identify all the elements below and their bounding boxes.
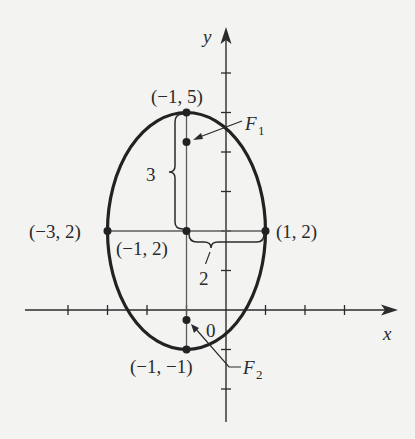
f2-label-name: F xyxy=(242,357,255,378)
f1-label-subscript: 1 xyxy=(258,123,265,138)
right-vertex-point xyxy=(262,227,270,235)
horizontal-brace-leader xyxy=(206,252,211,264)
horizontal-brace-label: 2 xyxy=(199,268,209,289)
f2-label-subscript: 2 xyxy=(256,367,263,382)
bottom-vertex-label: (−1, −1) xyxy=(130,356,193,378)
right-vertex-label: (1, 2) xyxy=(276,221,317,243)
center-label: (−1, 2) xyxy=(116,238,168,260)
focus-f2-point xyxy=(183,316,191,324)
focus-f1-point xyxy=(183,138,191,146)
top-vertex-point xyxy=(183,109,191,117)
bottom-vertex-point xyxy=(183,346,191,354)
y-axis: y 0 xyxy=(201,26,232,422)
top-vertex-label: (−1, 5) xyxy=(151,86,203,108)
f1-label-name: F xyxy=(244,113,257,134)
left-vertex-point xyxy=(104,227,112,235)
x-axis-label: x xyxy=(382,323,392,344)
focus-f1-annotation: F 1 xyxy=(193,113,265,140)
y-axis-label: y xyxy=(201,26,212,47)
ellipse-figure: x y 0 3 2 xyxy=(0,0,415,439)
center-point xyxy=(183,227,191,235)
left-vertex-label: (−3, 2) xyxy=(29,221,81,243)
f1-arrowhead-icon xyxy=(193,133,203,140)
origin-label: 0 xyxy=(206,320,216,341)
vertical-brace-label: 3 xyxy=(146,164,156,185)
vertical-brace: 3 xyxy=(146,114,183,229)
